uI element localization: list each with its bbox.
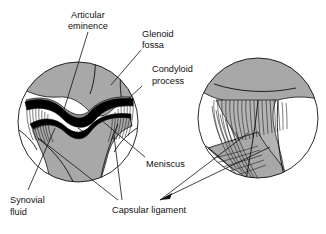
- label-glenoid-fossa-line2: fossa: [142, 40, 165, 50]
- left-panel-sagittal-section: [8, 52, 148, 194]
- label-articular-eminence: Articular eminence: [68, 10, 108, 31]
- condyloid-process-shape: [33, 117, 132, 192]
- label-glenoid-fossa: Glenoid fossa: [142, 29, 174, 50]
- label-synovial-fluid: Synovial fluid: [10, 195, 45, 217]
- label-glenoid-fossa-line1: Glenoid: [142, 29, 174, 39]
- leader-glenoid-fossa: [111, 50, 141, 85]
- label-condyloid-process-line1: Condyloid: [152, 64, 193, 74]
- label-capsular-ligament-line1: Capsular ligament: [112, 205, 186, 215]
- label-condyloid-process: Condyloid process: [152, 64, 193, 86]
- label-condyloid-process-line2: process: [152, 76, 185, 86]
- left-panel-contents: [8, 52, 148, 194]
- label-meniscus: Meniscus: [146, 159, 185, 169]
- label-articular-eminence-line2: eminence: [68, 21, 108, 31]
- label-synovial-fluid-line1: Synovial: [10, 195, 45, 205]
- tmj-diagram-figure: Articular eminence Glenoid fossa Condylo…: [0, 0, 326, 234]
- label-capsular-ligament: Capsular ligament: [112, 205, 186, 215]
- label-synovial-fluid-line2: fluid: [10, 207, 27, 217]
- label-meniscus-line1: Meniscus: [146, 159, 185, 169]
- diagram-canvas: Articular eminence Glenoid fossa Condylo…: [0, 0, 326, 234]
- label-articular-eminence-line1: Articular: [71, 10, 105, 20]
